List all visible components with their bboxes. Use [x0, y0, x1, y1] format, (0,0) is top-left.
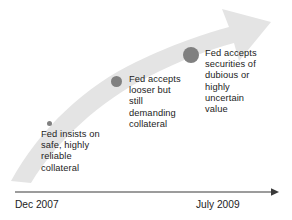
milestone-label-1: Fed insists on safe, highly reliable col… [41, 129, 141, 174]
milestone-label-3: Fed accepts securities of dubious or hig… [205, 48, 291, 115]
axis-label-start: Dec 2007 [15, 199, 59, 211]
time-axis [15, 186, 280, 200]
milestone-dot-medium [111, 76, 122, 87]
milestone-dot-large [183, 47, 199, 63]
axis-arrow-icon [15, 186, 280, 200]
axis-label-end: July 2009 [196, 199, 240, 211]
milestone-label-2: Fed accepts looser but still demanding c… [129, 74, 209, 130]
timeline-diagram: Fed insists on safe, highly reliable col… [0, 0, 292, 220]
milestone-dot-small [47, 121, 52, 126]
